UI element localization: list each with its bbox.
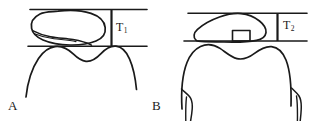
thickness-label-t2-base: T: [283, 18, 290, 32]
figure-container: T1 T2 A B: [0, 0, 319, 121]
panel-b-tooth-root-right: [292, 88, 302, 121]
thickness-label-t1-subscript: 1: [124, 26, 128, 35]
thickness-label-t1-base: T: [116, 20, 123, 34]
panel-a-group: [26, 10, 147, 98]
panel-label-a: A: [8, 99, 17, 112]
thickness-label-t2-subscript: 2: [291, 24, 295, 33]
panel-a-tooth-crown-outline: [26, 46, 137, 97]
panel-b-lens-outline: [194, 13, 266, 42]
panel-b-square-marker: [233, 31, 251, 42]
panel-b-tooth-root-right-inner: [297, 96, 298, 121]
thickness-label-t1: T1: [116, 21, 127, 33]
panel-b-tooth-root-left-inner: [186, 97, 187, 121]
panel-label-b: B: [152, 99, 161, 112]
panel-b-tooth-crown-outline: [182, 45, 291, 109]
panel-a-inner-crease-curve: [33, 31, 92, 45]
thickness-label-t2: T2: [283, 19, 294, 31]
panel-b-tooth-root-left: [182, 89, 193, 121]
